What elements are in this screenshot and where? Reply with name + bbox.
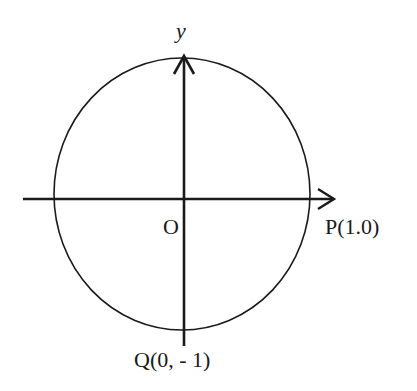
point-q-label: Q(0, - 1) (134, 347, 210, 372)
unit-circle (54, 58, 310, 330)
y-axis-label: y (174, 18, 186, 43)
diagram-canvas: y O P(1.0) Q(0, - 1) (0, 0, 417, 391)
point-p-label: P(1.0) (325, 214, 379, 239)
origin-label: O (163, 214, 179, 239)
